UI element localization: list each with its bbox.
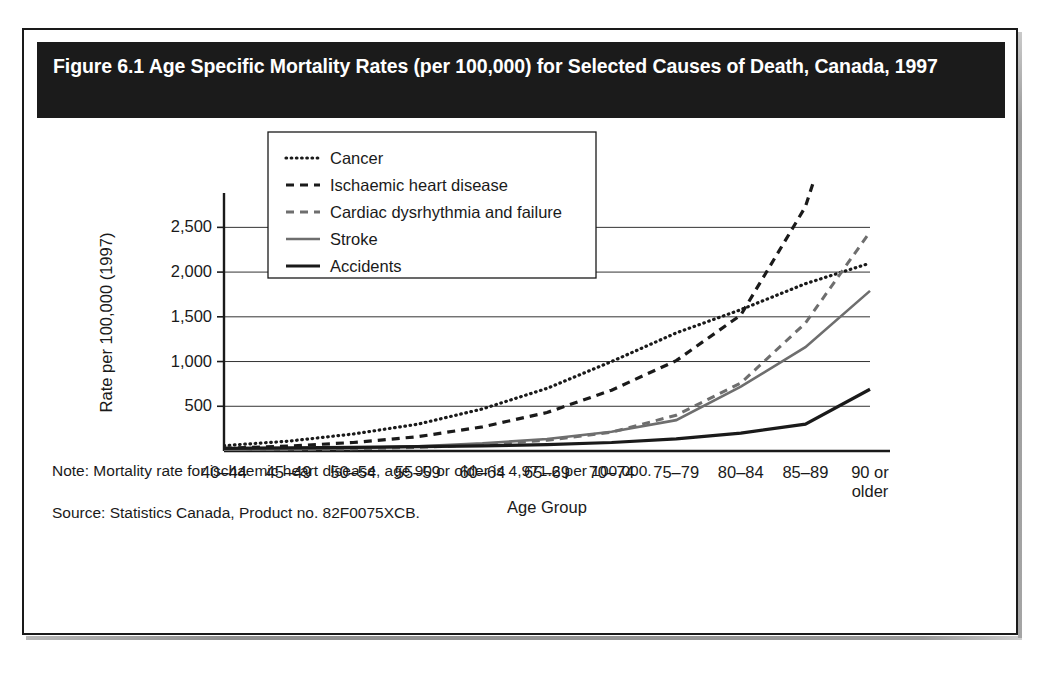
- y-axis-title: Rate per 100,000 (1997): [97, 213, 116, 433]
- figure-note: Note: Mortality rate for ischaemic heart…: [52, 462, 982, 480]
- y-axis-tick-label: 1,000: [128, 352, 212, 371]
- figure-drop-shadow-bottom: [26, 636, 1022, 640]
- series-line: [224, 291, 870, 450]
- figure-source: Source: Statistics Canada, Product no. 8…: [52, 504, 982, 522]
- series-line: [224, 263, 870, 445]
- figure-footnotes: Note: Mortality rate for ischaemic heart…: [52, 462, 982, 546]
- chart-legend: CancerIschaemic heart diseaseCardiac dys…: [268, 132, 596, 278]
- legend-label: Cancer: [330, 149, 384, 167]
- figure-drop-shadow-right: [1018, 32, 1022, 638]
- y-axis-tick-label: 2,500: [128, 217, 212, 236]
- legend-label: Accidents: [330, 257, 402, 275]
- figure-panel: Figure 6.1 Age Specific Mortality Rates …: [22, 28, 1018, 635]
- y-axis-tick-label: 2,000: [128, 262, 212, 281]
- legend-label: Ischaemic heart disease: [330, 176, 508, 194]
- y-axis-tick-label: 1,500: [128, 307, 212, 326]
- legend-label: Stroke: [330, 230, 378, 248]
- legend-label: Cardiac dysrhythmia and failure: [330, 203, 562, 221]
- figure-title: Figure 6.1 Age Specific Mortality Rates …: [37, 42, 1005, 118]
- y-axis-tick-label: 500: [128, 396, 212, 415]
